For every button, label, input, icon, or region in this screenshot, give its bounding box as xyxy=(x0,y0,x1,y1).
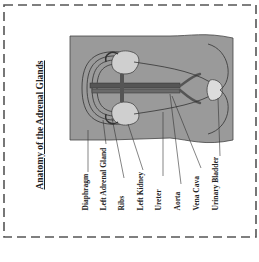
renal-vessel xyxy=(120,74,124,102)
label-urinary-bladder: Urinary Bladder xyxy=(211,157,220,211)
vena-cava-shape xyxy=(92,89,180,93)
label-ribs: Ribs xyxy=(117,196,126,211)
label-left-kidney: Left Kidney xyxy=(136,172,145,211)
label-ureter: Ureter xyxy=(154,189,163,210)
diagram-title: Anatomy of the Adrenal Glands xyxy=(35,60,45,189)
label-diaphragm: Diaphragm xyxy=(81,174,90,211)
aorta-shape xyxy=(90,83,180,88)
label-aorta: Aorta xyxy=(173,192,182,211)
label-vena-cava: Vena Cava xyxy=(192,176,201,211)
label-left-adrenal-gland: Left Adrenal Gland xyxy=(99,148,108,211)
